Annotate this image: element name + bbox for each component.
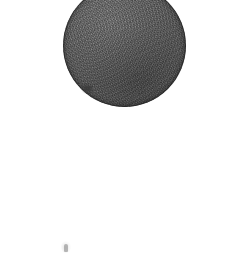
disk-rim-nick	[83, 85, 92, 92]
disk-fill	[63, 0, 186, 107]
image-canvas	[0, 0, 247, 258]
faint-smudge-mark	[61, 241, 71, 253]
smudge-core	[64, 244, 68, 252]
disk-grain-layer-b	[63, 0, 186, 107]
disk-object	[63, 0, 186, 107]
